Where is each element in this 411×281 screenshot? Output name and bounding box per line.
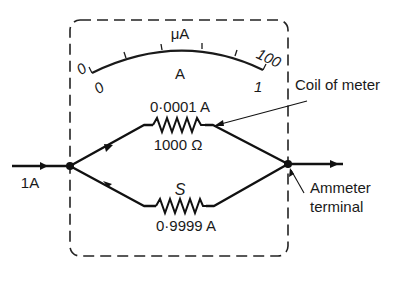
ammeter-shunt-diagram: μA A 0 0 100 1 0·0001 A 1000 Ω S 0·9999 … (0, 0, 411, 281)
scale-unit-amp: A (175, 65, 185, 82)
shunt-symbol-label: S (175, 181, 186, 198)
scale-unit-microamp: μA (171, 25, 190, 42)
terminal-annotation-line1: Ammeter (310, 179, 371, 196)
coil-annotation: Coil of meter (295, 76, 380, 93)
coil-resistance-label: 1000 Ω (154, 136, 203, 153)
coil-leader-line (217, 101, 307, 125)
shunt-current-label: 0·9999 A (156, 217, 216, 234)
ammeter-terminal-junction (284, 160, 292, 168)
scale-bottom-min: 0 (91, 78, 108, 97)
scale-bottom-max: 1 (254, 78, 262, 95)
terminal-annotation-line2: terminal (310, 198, 363, 215)
shunt-resistor (156, 199, 206, 213)
coil-current-label: 0·0001 A (150, 98, 210, 115)
coil-resistor (153, 118, 205, 132)
input-junction (66, 162, 74, 170)
terminal-leader-arrow (289, 168, 294, 177)
scale-top-min: 0 (73, 59, 90, 78)
coil-leader-arrow (214, 120, 224, 126)
input-current-label: 1A (21, 174, 39, 191)
